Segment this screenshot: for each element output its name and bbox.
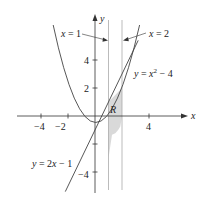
x1-label: x = 1 [60,28,81,39]
y-axis-label: y [99,13,105,24]
x-axis-arrow-icon [181,114,188,119]
x-tick-label-neg4: −4 [34,121,45,132]
leader-x1 [82,34,106,40]
y-tick-label-2: 2 [84,83,89,94]
line-label: y = 2x − 1 [31,158,72,169]
graph-canvas: y x −4 −2 4 2 4 −4 R y = x2 − 4 y = 2x −… [0,0,202,203]
parabola-label: y = x2 − 4 [133,67,173,79]
x-axis-label: x [190,110,196,121]
y-tick-label-neg4: −4 [78,169,89,180]
y-axis-arrow-icon [93,14,98,21]
leader-x2-arrow-icon [123,37,129,41]
x-tick-label-neg2: −2 [55,121,66,132]
y-tick-label-4: 4 [84,55,89,66]
region-label: R [109,104,116,115]
x-tick-label-4: 4 [146,121,151,132]
x2-label: x = 2 [148,28,169,39]
leader-x1-arrow-icon [103,38,109,42]
